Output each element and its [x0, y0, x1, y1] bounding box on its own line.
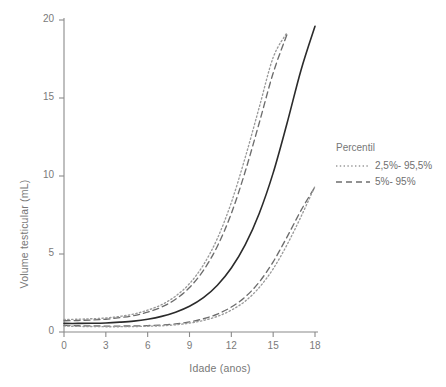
x-axis-title: Idade (anos): [160, 362, 280, 374]
legend-line-swatch: [336, 161, 370, 171]
legend-entries: 2,5%- 95,5%5%- 95%: [336, 158, 444, 189]
y-tick-label: 20: [28, 13, 54, 24]
y-tick-label: 15: [28, 91, 54, 102]
y-axis-ticks: [59, 20, 64, 332]
legend-title: Percentil: [336, 142, 444, 153]
legend-line-swatch: [336, 177, 370, 187]
x-tick-label: 0: [51, 340, 77, 351]
series-line: [64, 34, 287, 321]
y-tick-label: 10: [28, 169, 54, 180]
x-tick-label: 9: [177, 340, 203, 351]
series-line: [64, 187, 315, 326]
series-line: [64, 32, 287, 319]
series-line: [64, 26, 315, 323]
x-tick-label: 6: [135, 340, 161, 351]
y-tick-label: 5: [28, 247, 54, 258]
chart-figure: Volume testicular (mL) Idade (anos) 0510…: [0, 0, 446, 387]
legend-entry[interactable]: 5%- 95%: [336, 174, 444, 189]
x-axis-ticks: [64, 332, 315, 337]
legend-entry-label: 2,5%- 95,5%: [375, 160, 432, 171]
x-tick-label: 12: [218, 340, 244, 351]
chart-legend: Percentil 2,5%- 95,5%5%- 95%: [336, 142, 444, 190]
x-tick-label: 18: [302, 340, 328, 351]
x-tick-label: 15: [260, 340, 286, 351]
legend-entry[interactable]: 2,5%- 95,5%: [336, 158, 444, 173]
x-tick-label: 3: [93, 340, 119, 351]
y-tick-label: 0: [28, 325, 54, 336]
chart-series-group: [64, 26, 315, 326]
legend-entry-label: 5%- 95%: [375, 176, 416, 187]
chart-plot-area: [0, 0, 446, 387]
